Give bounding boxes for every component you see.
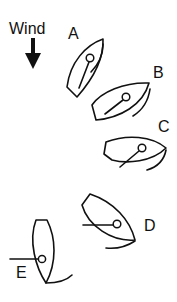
boat-e: E [10, 220, 72, 283]
boat-e-mast [38, 255, 45, 262]
boat-d-label: D [144, 217, 156, 234]
boat-c-hull [104, 137, 166, 162]
boat-e-hull [33, 220, 54, 283]
boat-c-label: C [158, 118, 170, 135]
sailing-diagram: Wind A B C D E [0, 0, 177, 302]
boat-a-hull [67, 39, 103, 97]
boat-e-label: E [16, 264, 27, 281]
boat-b: B [92, 64, 164, 120]
boat-b-label: B [153, 64, 164, 81]
boat-d-mast [113, 220, 121, 228]
boat-d: D [82, 194, 156, 248]
boat-b-boom [105, 100, 123, 114]
boat-b-sheet [133, 89, 150, 116]
boat-c: C [104, 118, 170, 170]
boat-c-sheet [147, 150, 166, 170]
boat-a-mast [86, 54, 94, 62]
boat-d-sheet [106, 241, 135, 248]
down-arrow-icon [25, 38, 41, 69]
boat-d-hull [82, 194, 135, 240]
boat-c-mast [138, 144, 146, 152]
boat-a: A [67, 25, 103, 97]
wind-label: Wind [9, 20, 45, 37]
boat-c-boom [120, 151, 139, 167]
boat-b-mast [122, 93, 130, 101]
boat-a-label: A [68, 25, 79, 42]
